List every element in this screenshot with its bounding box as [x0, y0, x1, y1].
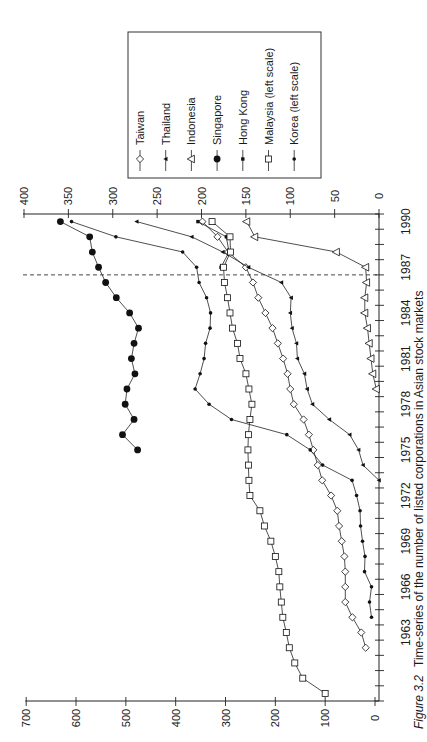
data-point-filled-triangle: [279, 280, 283, 284]
data-point-open-square: [225, 295, 231, 301]
rotated-line-chart: 1963196619691972197519781981198419871990…: [0, 0, 427, 742]
legend-marker-icon: [214, 156, 221, 163]
series-line: [212, 222, 325, 694]
data-point-filled-circle-large: [126, 310, 133, 317]
data-point-filled-triangle: [220, 250, 224, 254]
data-point-open-square: [292, 660, 298, 666]
data-point-open-square: [221, 264, 227, 270]
legend-marker-icon: [292, 157, 296, 161]
data-point-open-square: [272, 553, 278, 559]
data-point-open-square: [245, 432, 251, 438]
data-point-open-square: [280, 614, 286, 620]
year-tick-label: 1966: [399, 573, 413, 600]
data-point-filled-circle-small: [209, 311, 213, 315]
data-point-open-diamond: [358, 629, 365, 636]
data-point-open-square: [276, 569, 282, 575]
right-scale-tick-label: 300: [107, 187, 119, 205]
data-point-open-diamond: [349, 614, 356, 621]
data-point-open-square: [237, 356, 243, 362]
data-point-filled-square: [196, 220, 199, 223]
data-point-open-square: [229, 325, 235, 331]
series-hong-kong: [196, 220, 230, 269]
data-point-open-diamond: [269, 325, 276, 332]
data-point-filled-circle-small: [204, 342, 208, 346]
data-point-open-square: [247, 416, 253, 422]
data-point-open-diamond: [284, 370, 291, 377]
data-point-open-square: [243, 371, 249, 377]
left-scale-tick-label: 300: [220, 709, 232, 727]
data-point-open-square: [227, 249, 233, 255]
data-point-open-diamond: [319, 477, 326, 484]
data-point-filled-circle-small: [370, 615, 374, 619]
data-point-open-triangle: [243, 218, 250, 226]
data-point-filled-circle-small: [308, 448, 312, 452]
figure: 1963196619691972197519781981198419871990…: [0, 0, 427, 742]
series-line: [60, 222, 138, 450]
data-point-open-square: [322, 690, 328, 696]
year-tick-label: 1975: [399, 436, 413, 463]
data-point-open-diamond: [342, 583, 349, 590]
legend-label: Hong Kong: [237, 90, 249, 145]
right-scale-tick-label: 150: [240, 187, 252, 205]
left-scale-tick-label: 600: [70, 709, 82, 727]
data-point-filled-circle-small: [363, 555, 367, 559]
year-tick-label: 1984: [399, 299, 413, 326]
data-point-filled-circle-small: [368, 600, 372, 604]
data-point-open-diamond: [255, 294, 262, 301]
data-point-filled-triangle: [288, 311, 292, 315]
data-point-filled-circle-large: [132, 370, 139, 377]
data-point-open-square: [278, 599, 284, 605]
data-point-filled-circle-large: [95, 264, 102, 271]
series: [57, 218, 381, 697]
data-point-open-diamond: [280, 355, 287, 362]
data-point-open-diamond: [300, 416, 307, 423]
data-point-filled-circle-small: [197, 281, 201, 285]
series-malaysia-left-scale: [209, 219, 328, 697]
figure-label: Figure 3.2: [412, 675, 426, 729]
data-point-open-square: [268, 538, 274, 544]
data-point-open-diamond: [327, 492, 334, 499]
data-point-filled-circle-small: [114, 235, 118, 239]
data-point-filled-circle-small: [181, 250, 185, 254]
data-point-filled-circle-large: [57, 218, 64, 225]
year-tick-label: 1963: [399, 619, 413, 646]
legend-label: Taiwan: [134, 111, 146, 145]
data-point-open-diamond: [335, 522, 342, 529]
data-point-filled-circle-large: [119, 431, 126, 438]
data-point-filled-circle-large: [122, 401, 129, 408]
data-point-open-square: [286, 645, 292, 651]
data-point-filled-circle-small: [285, 433, 289, 437]
data-point-open-square: [245, 462, 251, 468]
year-tick-label: 1972: [399, 482, 413, 509]
right-scale-tick-label: 100: [284, 187, 296, 205]
data-point-filled-circle-small: [198, 372, 202, 376]
data-point-filled-circle-small: [195, 265, 199, 269]
legend-marker-icon: [266, 156, 272, 162]
data-point-open-diamond: [249, 279, 256, 286]
right-scale-tick-label: 400: [18, 187, 30, 205]
data-point-filled-circle-small: [321, 463, 325, 467]
data-point-open-square: [277, 584, 283, 590]
data-point-filled-circle-large: [131, 416, 138, 423]
right-scale-tick-label: 200: [196, 187, 208, 205]
data-point-filled-circle-large: [86, 233, 93, 240]
data-point-filled-circle-large: [131, 340, 138, 347]
data-point-filled-circle-small: [193, 387, 197, 391]
data-point-filled-circle-small: [205, 296, 209, 300]
right-scale-tick-label: 250: [151, 187, 163, 205]
left-scale-tick-label: 0: [369, 715, 381, 721]
data-point-filled-circle-large: [134, 446, 141, 453]
data-point-open-diamond: [290, 401, 297, 408]
data-point-filled-circle-small: [370, 585, 374, 589]
series-singapore: [57, 218, 142, 453]
data-point-filled-circle-small: [355, 494, 359, 498]
left-scale-tick-label: 200: [269, 709, 281, 727]
left-scale-tick-label: 400: [170, 709, 182, 727]
legend-label: Thailand: [160, 103, 172, 145]
data-point-open-triangle: [251, 233, 258, 241]
data-point-open-square: [300, 675, 306, 681]
data-point-filled-circle-small: [70, 220, 74, 224]
data-point-open-triangle: [332, 248, 339, 256]
data-point-filled-circle-small: [350, 479, 354, 483]
data-point-filled-triangle: [356, 448, 360, 452]
